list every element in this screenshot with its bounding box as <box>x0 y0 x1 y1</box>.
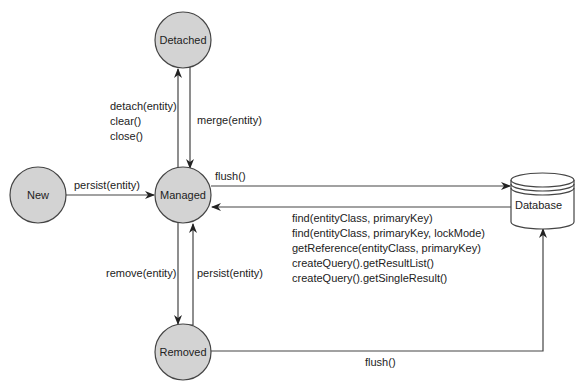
label-managed-to-detached: detach(entity) clear() close() <box>110 99 177 144</box>
state-managed-label: Managed <box>148 188 218 202</box>
label-managed-to-removed: remove(entity) <box>106 266 176 281</box>
database-label: Database <box>515 198 562 213</box>
label-new-to-managed: persist(entity) <box>74 178 140 193</box>
state-removed-label: Removed <box>148 345 218 359</box>
diagram-canvas <box>0 0 585 389</box>
state-new-label: New <box>3 188 73 202</box>
state-detached-label: Detached <box>148 33 218 47</box>
edge-removed-to-managed <box>186 224 193 325</box>
label-database-to-managed: find(entityClass, primaryKey) find(entit… <box>292 211 485 286</box>
label-removed-to-database: flush() <box>365 355 396 370</box>
label-removed-to-managed: persist(entity) <box>197 266 263 281</box>
edge-detached-to-managed <box>183 67 190 168</box>
label-managed-to-database: flush() <box>215 169 246 184</box>
label-detached-to-managed: merge(entity) <box>197 113 262 128</box>
